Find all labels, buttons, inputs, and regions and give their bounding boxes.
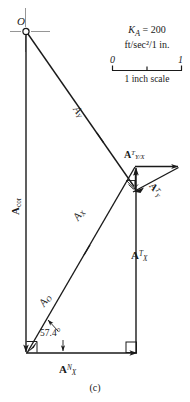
scale-tick-min: 0 [110, 54, 115, 65]
label-a-cor-base: A [9, 207, 21, 215]
label-vector-a-cor: Acor [10, 198, 23, 215]
scale-bar-caption: 1 inch scale [110, 74, 184, 84]
label-a-cor-sub: cor [15, 198, 23, 207]
origin-label: O [17, 16, 25, 27]
angle-label: 57.4° [40, 329, 60, 339]
scale-factor-symbol: K [128, 24, 135, 35]
scale-units-line: ft/sec²/1 in. [106, 39, 188, 51]
vector-a-x [27, 167, 135, 353]
scale-tick-max: 1 [178, 54, 183, 65]
origin-crosshair [10, 8, 50, 52]
label-a-x-n-sub: X [72, 369, 76, 377]
label-vector-a-x-t: ATX [131, 250, 147, 263]
scale-factor-equals: = [143, 24, 149, 35]
right-angle-mark-corner [126, 342, 137, 353]
scale-factor-subscript: A [135, 29, 140, 38]
figure-caption: (c) [0, 383, 190, 393]
label-vector-a-x-n: ANX [59, 364, 76, 377]
label-a-x-t-sub: X [143, 255, 147, 263]
label-a-x-t-base: A [131, 249, 139, 261]
scale-factor-line: KA = 200 [106, 24, 188, 39]
legend-block: KA = 200 ft/sec²/1 in. 0 1 1 inch scale [106, 24, 188, 84]
scale-bar-group: 0 1 1 inch scale [110, 54, 184, 84]
vector-diagram-figure: KA = 200 ft/sec²/1 in. 0 1 1 inch scale … [0, 0, 190, 402]
scale-factor-value: 200 [151, 24, 166, 35]
label-a-y-over-x-t-sub: Y/X [135, 153, 145, 160]
scale-bar [110, 65, 184, 74]
label-vector-a-y-over-x-t: ATY/X [124, 150, 144, 161]
label-a-x-n-base: A [59, 363, 67, 375]
scale-tick-labels: 0 1 [110, 54, 184, 65]
